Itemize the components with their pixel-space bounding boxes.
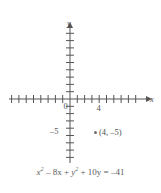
y-tick-label-negative-5: –5	[50, 127, 59, 136]
equation-tail: + 10y = –41	[78, 167, 124, 177]
axes-drawing	[0, 0, 161, 165]
origin-tick-label: 0	[64, 102, 68, 111]
x-axis-label: x	[150, 95, 154, 104]
graph-figure: y x 0 4 –5 (4, –5) x2 – 8x + y2 + 10y = …	[0, 0, 161, 193]
y-axis-label: y	[67, 19, 71, 28]
x-tick-label-4: 4	[97, 104, 101, 113]
coordinate-plane: y x 0 4 –5 (4, –5)	[0, 0, 161, 165]
equation-caption: x2 – 8x + y2 + 10y = –41	[0, 168, 161, 178]
equation-middle-x: – 8x +	[44, 167, 72, 177]
data-point-label: (4, –5)	[99, 128, 122, 137]
